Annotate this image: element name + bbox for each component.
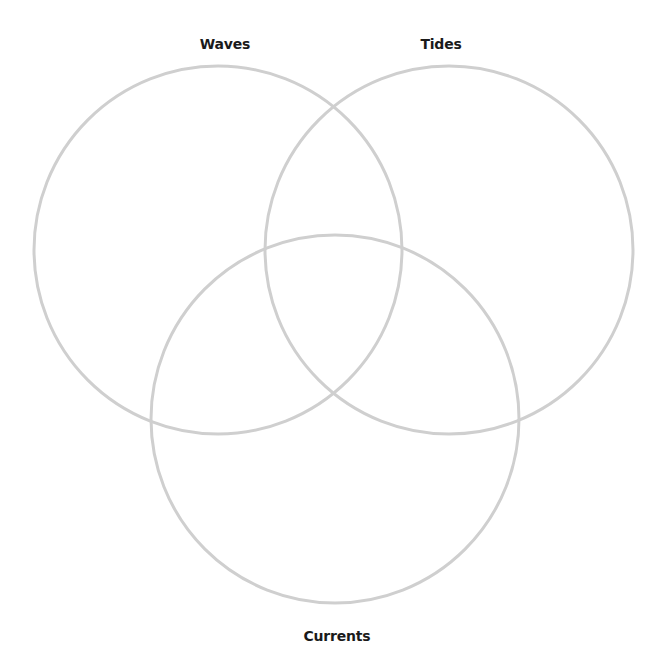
currents-circle (151, 235, 519, 603)
waves-circle (34, 66, 402, 434)
tides-circle (265, 66, 633, 434)
tides-label: Tides (420, 36, 461, 52)
venn-diagram (0, 0, 666, 662)
currents-label: Currents (304, 628, 371, 644)
waves-label: Waves (200, 36, 250, 52)
